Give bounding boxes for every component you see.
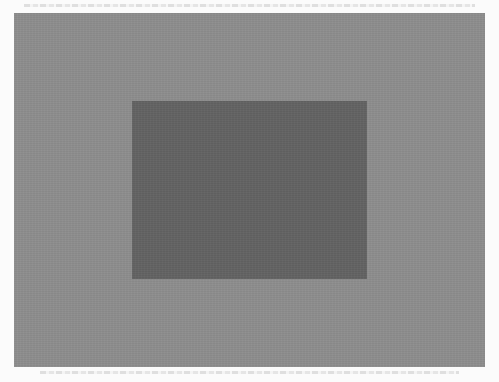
inner-dark-square <box>132 101 367 279</box>
bleed-through-text-top <box>24 4 475 7</box>
bleed-through-text-bottom <box>40 371 459 374</box>
scanned-page <box>0 0 499 382</box>
